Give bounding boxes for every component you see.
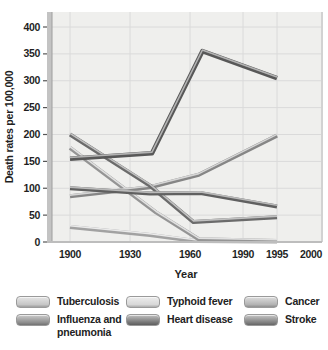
y-tick-label: 150	[23, 155, 40, 167]
y-tick-label: 100	[23, 182, 40, 194]
legend-column: TuberculosisInfluenza and pneumonia	[16, 295, 139, 344]
x-axis-title: Year	[174, 268, 198, 280]
legend-item-typhoid-fever: Typhoid fever	[126, 295, 233, 308]
chart-canvas: 0501001502002503003504001900193019601990…	[0, 0, 328, 295]
x-tick-label: 1990	[232, 248, 255, 260]
legend-item-stroke: Stroke	[244, 313, 319, 326]
y-tick-label: 400	[23, 21, 40, 33]
legend-item-influenza-and-pneumonia: Influenza and pneumonia	[16, 313, 139, 339]
legend-item-heart-disease: Heart disease	[126, 313, 233, 326]
legend-label: Cancer	[285, 295, 319, 308]
x-tick-label: 1995	[266, 248, 289, 260]
legend-label: Typhoid fever	[167, 295, 232, 308]
y-tick-label: 50	[29, 209, 41, 221]
legend-swatch-tuberculosis	[16, 296, 50, 308]
legend-label: Heart disease	[167, 313, 233, 326]
legend-column: CancerStroke	[244, 295, 319, 331]
death-rates-chart-figure: 0501001502002503003504001900193019601990…	[0, 0, 328, 350]
y-tick-label: 200	[23, 128, 40, 140]
legend-column: Typhoid feverHeart disease	[126, 295, 233, 331]
x-tick-label: 1930	[119, 248, 142, 260]
legend-swatch-stroke	[244, 314, 278, 326]
x-tick-label: 2000	[300, 248, 323, 260]
y-axis-wall	[47, 12, 52, 243]
legend-label: Tuberculosis	[57, 295, 119, 308]
legend-swatch-influenza-and-pneumonia	[16, 314, 50, 326]
y-tick-label: 350	[23, 47, 40, 59]
y-tick-label: 250	[23, 101, 40, 113]
y-tick-label: 300	[23, 74, 40, 86]
legend-item-cancer: Cancer	[244, 295, 319, 308]
legend-label: Stroke	[285, 313, 316, 326]
y-axis-title: Death rates per 100,000	[3, 70, 15, 183]
chart-legend: TuberculosisInfluenza and pneumoniaTypho…	[0, 295, 328, 350]
x-tick-label: 1900	[59, 248, 82, 260]
legend-swatch-typhoid-fever	[126, 296, 160, 308]
y-tick-label: 0	[34, 236, 40, 248]
legend-item-tuberculosis: Tuberculosis	[16, 295, 139, 308]
plot-area	[52, 12, 322, 242]
legend-swatch-heart-disease	[126, 314, 160, 326]
legend-swatch-cancer	[244, 296, 278, 308]
x-tick-label: 1960	[179, 248, 202, 260]
